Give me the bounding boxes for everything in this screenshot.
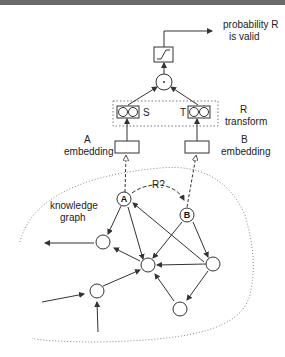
b-embedding-line2: embedding <box>221 146 270 157</box>
dot-product-node <box>156 74 172 90</box>
t-to-dot-arrow <box>171 87 198 105</box>
output-arrow <box>164 31 212 47</box>
s-vector <box>117 106 139 118</box>
svg-text:A: A <box>121 194 128 204</box>
s-to-dot-arrow <box>128 87 157 105</box>
transform-label-line1: R <box>240 104 247 115</box>
graph-label-line2: graph <box>60 212 86 223</box>
graph-node-right <box>206 257 220 271</box>
output-label-line1: probability R <box>223 19 279 30</box>
s-label: S <box>143 107 150 118</box>
a-embedding-line1: A <box>84 134 91 145</box>
a-embedding-box <box>115 141 139 153</box>
graph-node-bottom <box>173 302 187 316</box>
graph-label-line1: knowledge <box>50 200 98 211</box>
output-label-line2: is valid <box>229 31 260 42</box>
sigmoid-box <box>154 47 173 62</box>
relation-query-label: R? <box>152 179 165 190</box>
knowledge-graph-diagram: probability R is valid S T R transform A… <box>0 0 285 357</box>
a-embedding-line2: embedding <box>64 146 113 157</box>
a-to-embedding-dashed-arrow <box>125 156 126 192</box>
t-vector <box>188 106 210 118</box>
t-label: T <box>180 107 186 118</box>
b-to-embedding-dashed-arrow <box>187 156 196 207</box>
transform-label-line2: transform <box>225 116 267 127</box>
svg-text:B: B <box>184 210 191 220</box>
graph-node-left <box>96 235 110 249</box>
graph-node-lower-left <box>90 284 104 298</box>
b-embedding-line1: B <box>241 134 248 145</box>
graph-node-center <box>141 258 155 272</box>
knowledge-graph-boundary <box>20 167 253 342</box>
node-a: A <box>117 192 131 206</box>
b-embedding-box <box>185 141 209 153</box>
node-b: B <box>180 208 194 222</box>
